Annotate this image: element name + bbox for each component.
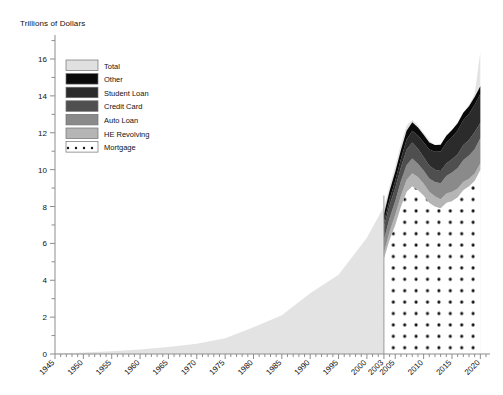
x-axis-tick-label: 1965 — [151, 358, 170, 377]
y-axis-tick-label: 16 — [38, 55, 47, 64]
legend-label-other: Other — [104, 75, 123, 84]
x-axis-tick-label: 1990 — [293, 358, 312, 377]
x-axis-tick-label: 2000 — [349, 358, 368, 377]
y-axis-tick-label: 4 — [43, 276, 48, 285]
y-axis-tick-label: 10 — [38, 166, 47, 175]
x-axis-tick-label: 2015 — [434, 358, 453, 377]
area-total-historical — [55, 207, 384, 355]
legend-swatch-total — [66, 60, 98, 71]
y-axis-tick-label: 6 — [43, 239, 48, 248]
x-axis-tick-label: 1970 — [179, 358, 198, 377]
x-axis-tick-label: 2010 — [406, 358, 425, 377]
legend-swatch-other — [66, 74, 98, 85]
x-axis-tick-label: 1955 — [94, 358, 113, 377]
legend-swatch-auto-loan — [66, 114, 98, 125]
y-axis-tick-label: 8 — [43, 203, 48, 212]
legend-label-total: Total — [104, 62, 120, 71]
x-axis-tick-label: 1995 — [321, 358, 340, 377]
legend-swatch-credit-card — [66, 101, 98, 112]
y-axis-tick-label: 2 — [43, 313, 48, 322]
y-axis-tick-label: 12 — [38, 129, 47, 138]
legend-swatch-student-loan — [66, 87, 98, 98]
chart-container: Trillions of Dollars 0246810121416194519… — [0, 0, 503, 395]
x-axis-tick-label: 1950 — [66, 358, 85, 377]
x-axis-tick-label: 1975 — [208, 358, 227, 377]
y-axis-tick-label: 14 — [38, 92, 47, 101]
legend-swatch-he-revolving — [66, 128, 98, 139]
legend-group: TotalOtherStudent LoanCredit CardAuto Lo… — [104, 62, 149, 153]
y-axis-tick-label: 0 — [43, 350, 48, 359]
legend-label-student-loan: Student Loan — [104, 89, 149, 98]
x-axis-tick-label: 1980 — [236, 358, 255, 377]
x-axis-tick-label: 2020 — [463, 358, 482, 377]
x-axis-tick-label: 1960 — [123, 358, 142, 377]
x-axis-tick-label: 1985 — [264, 358, 283, 377]
legend-label-credit-card: Credit Card — [104, 102, 142, 111]
legend-label-mortgage: Mortgage — [104, 143, 136, 152]
legend-label-auto-loan: Auto Loan — [104, 116, 138, 125]
legend-label-he-revolving: HE Revolving — [104, 130, 149, 139]
x-axis-tick-label: 1945 — [37, 358, 56, 377]
chart-plot: 0246810121416194519501955196019651970197… — [0, 0, 503, 395]
legend-swatch-mortgage — [66, 142, 98, 153]
